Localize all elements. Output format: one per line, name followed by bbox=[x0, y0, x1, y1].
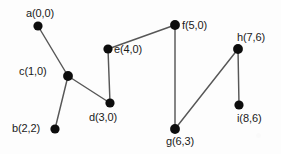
graph-node-label-i: i(8,6) bbox=[237, 113, 261, 124]
graph-edge-c-d bbox=[68, 76, 110, 103]
graph-node-label-h: h(7,6) bbox=[237, 32, 265, 43]
graph-edge-c-b bbox=[55, 76, 68, 129]
node-layer bbox=[33, 20, 243, 134]
graph-node-d bbox=[105, 98, 114, 107]
graph-node-label-e: e(4,0) bbox=[114, 44, 142, 55]
graph-edge-h-i bbox=[238, 49, 239, 105]
graph-node-e bbox=[103, 44, 112, 53]
graph-node-label-b: b(2,2) bbox=[12, 123, 40, 134]
graph-node-label-a: a(0,0) bbox=[26, 8, 54, 19]
graph-node-c bbox=[63, 71, 73, 81]
graph-node-label-d: d(3,0) bbox=[89, 112, 117, 123]
graph-node-label-g: g(6,3) bbox=[166, 136, 194, 147]
graph-edge-d-e bbox=[108, 49, 110, 103]
graph-node-g bbox=[170, 124, 180, 134]
graph-canvas bbox=[0, 0, 281, 154]
graph-node-label-c: c(1,0) bbox=[19, 66, 47, 77]
graph-node-h bbox=[233, 44, 243, 54]
graph-node-f bbox=[170, 20, 180, 30]
graph-node-b bbox=[50, 124, 59, 133]
graph-edge-g-h bbox=[175, 49, 238, 129]
graph-figure: a(0,0)b(2,2)c(1,0)d(3,0)e(4,0)f(5,0)g(6,… bbox=[0, 0, 281, 154]
graph-node-i bbox=[234, 100, 243, 109]
graph-node-label-f: f(5,0) bbox=[182, 20, 207, 31]
graph-node-a bbox=[33, 21, 42, 30]
